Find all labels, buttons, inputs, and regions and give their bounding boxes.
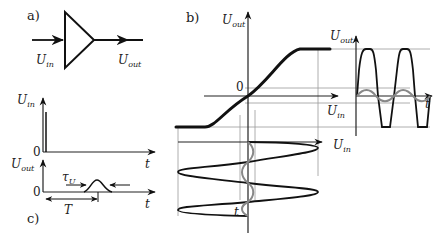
output-plot-y-label: Uout <box>330 29 354 45</box>
panel-b-label: b) <box>186 10 199 25</box>
amplifier-diagram: a) Uin Uout Uin 0 t Uout 0 t τU T c) <box>0 0 445 233</box>
input-axis-label: Uin <box>333 138 351 154</box>
c-bottom-origin: 0 <box>33 185 41 199</box>
panel-a-label: a) <box>27 8 40 23</box>
panel-c-label: c) <box>27 211 39 226</box>
c-top-y-label: Uin <box>17 93 35 109</box>
panel-b: b) Uout 0 Uin Uin t Uout t <box>176 10 432 233</box>
amplifier-triangle-icon <box>65 12 94 68</box>
c-bottom-y-label: Uout <box>11 157 35 173</box>
tau-label: τU <box>62 170 76 186</box>
time-label: t <box>234 205 239 219</box>
panel-c: Uin 0 t Uout 0 t τU T c) <box>11 93 155 226</box>
c-bottom-t-label: t <box>145 197 150 211</box>
transfer-origin: 0 <box>236 80 244 94</box>
panel-a: a) Uin Uout <box>27 8 143 69</box>
period-label: T <box>64 203 73 217</box>
input-label: Uin <box>36 53 54 69</box>
c-top-t-label: t <box>145 157 150 171</box>
transfer-x-label: Uin <box>327 104 345 120</box>
transfer-y-label: Uout <box>222 13 246 29</box>
output-pulse <box>84 180 112 192</box>
c-top-origin: 0 <box>33 145 41 159</box>
output-label: Uout <box>118 53 142 69</box>
